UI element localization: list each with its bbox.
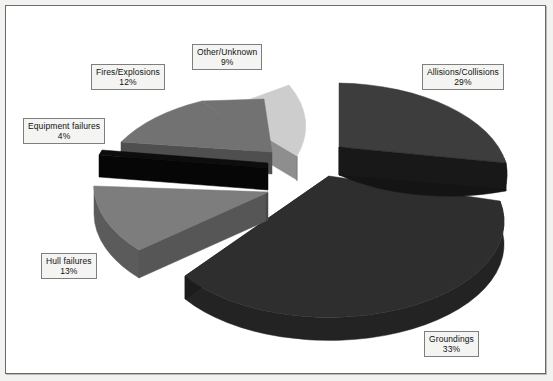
callout-label: Equipment failures — [28, 121, 100, 131]
chart-frame: Allisions/Collisions 29% Other/Unknown 9… — [5, 5, 546, 374]
callout-equipment-failures[interactable]: Equipment failures 4% — [23, 118, 105, 144]
callout-label: Fires/Explosions — [96, 67, 160, 77]
callout-groundings[interactable]: Groundings 33% — [424, 331, 479, 357]
callout-value: 13% — [46, 266, 92, 276]
callout-label: Hull failures — [46, 256, 92, 266]
callout-value: 33% — [429, 344, 474, 354]
pie-slice-hull-side-right — [266, 192, 268, 221]
chart-root: Allisions/Collisions 29% Other/Unknown 9… — [0, 0, 553, 381]
callout-fires-explosions[interactable]: Fires/Explosions 12% — [91, 64, 165, 90]
callout-hull-failures[interactable]: Hull failures 13% — [41, 253, 97, 279]
callout-allisions-collisions[interactable]: Allisions/Collisions 29% — [422, 64, 504, 90]
callout-label: Allisions/Collisions — [427, 67, 499, 77]
callout-label: Other/Unknown — [197, 47, 257, 57]
callout-value: 12% — [96, 77, 160, 87]
pie-slice-allisions[interactable] — [339, 83, 507, 196]
callout-value: 9% — [197, 57, 257, 67]
callout-value: 29% — [427, 77, 499, 87]
callout-value: 4% — [28, 131, 100, 141]
callout-label: Groundings — [429, 334, 474, 344]
callout-other-unknown[interactable]: Other/Unknown 9% — [192, 44, 262, 70]
pie-chart-3d — [6, 6, 545, 373]
plot-area: Allisions/Collisions 29% Other/Unknown 9… — [6, 6, 545, 373]
